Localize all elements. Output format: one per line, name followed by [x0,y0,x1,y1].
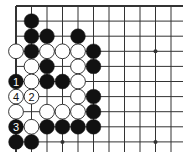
white-stone [40,104,55,119]
move-number-label: 1 [13,76,19,88]
white-stone [55,104,70,119]
white-stone-disc [24,119,39,134]
white-stone-disc [40,44,55,59]
move-number-label: 4 [13,91,19,103]
black-stone [40,29,55,44]
numbered-white-stone: 2 [24,89,39,104]
numbered-black-stone: 1 [9,74,24,89]
move-number-label: 3 [13,121,19,133]
black-stone [40,119,55,134]
black-stone-disc [86,119,101,134]
black-stone-disc [71,119,86,134]
white-stone [71,104,86,119]
white-stone-disc [71,59,86,74]
black-stone-disc [55,74,70,89]
black-stone [86,44,101,59]
black-stone-disc [24,14,39,29]
black-stone [86,119,101,134]
white-stone [71,59,86,74]
black-stone [55,119,70,134]
white-stone-disc [55,44,70,59]
white-stone-disc [71,74,86,89]
black-stone [86,89,101,104]
black-stone-disc [86,104,101,119]
white-stone [24,119,39,134]
black-stone-disc [40,59,55,74]
white-stone-disc [24,59,39,74]
white-stone-disc [24,74,39,89]
white-stone [24,59,39,74]
black-stone-disc [71,29,86,44]
white-stone-disc [9,104,24,119]
white-stone [9,104,24,119]
white-stone [40,44,55,59]
black-stone [24,14,39,29]
white-stone-disc [40,104,55,119]
go-board: 1423 [0,0,191,157]
white-stone [71,44,86,59]
numbered-black-stone: 3 [9,119,24,134]
star-point [154,140,158,144]
black-stone-disc [40,29,55,44]
white-stone-disc [9,44,24,59]
star-point [154,49,158,53]
black-stone [24,44,39,59]
black-stone [86,104,101,119]
black-stone [55,74,70,89]
black-stone-disc [86,59,101,74]
move-number-label: 2 [28,91,34,103]
white-stone [55,44,70,59]
black-stone [40,74,55,89]
white-stone-disc [71,104,86,119]
black-stone-disc [40,74,55,89]
star-point [61,140,65,144]
black-stone [71,29,86,44]
black-stone [71,119,86,134]
black-stone [86,59,101,74]
black-stone-disc [86,44,101,59]
black-stone-disc [9,135,24,150]
white-stone [24,74,39,89]
white-stone-disc [71,89,86,104]
black-stone-disc [55,119,70,134]
black-stone [9,135,24,150]
black-stone-disc [40,119,55,134]
black-stone [24,29,39,44]
white-stone-disc [55,104,70,119]
black-stone-disc [24,44,39,59]
numbered-white-stone: 4 [9,89,24,104]
black-stone-disc [24,135,39,150]
black-stone-disc [24,29,39,44]
white-stone-disc [71,44,86,59]
white-stone [9,44,24,59]
white-stone [71,74,86,89]
black-stone [24,135,39,150]
black-stone-disc [86,89,101,104]
white-stone [71,89,86,104]
black-stone [40,59,55,74]
